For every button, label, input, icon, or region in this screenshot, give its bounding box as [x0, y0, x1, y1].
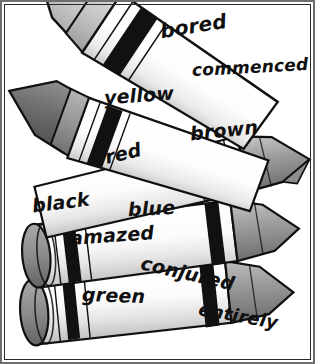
crayon-illustration: bored commenced yellow brown red black b… — [0, 0, 315, 364]
label-green: green — [82, 284, 146, 308]
label-blue: blue — [127, 197, 175, 221]
